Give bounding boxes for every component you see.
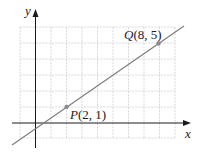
point-p-coords: (2, 1) bbox=[78, 107, 106, 122]
x-axis-label: x bbox=[184, 126, 191, 141]
y-axis-arrow-icon bbox=[33, 9, 39, 17]
point-p-name: P bbox=[69, 107, 78, 122]
point-q-label: Q(8, 5) bbox=[124, 27, 162, 42]
y-axis-label: y bbox=[23, 3, 31, 18]
point-p-label: P(2, 1) bbox=[69, 107, 106, 122]
coordinate-plane: y x P(2, 1) Q(8, 5) bbox=[0, 0, 202, 155]
point-q-coords: (8, 5) bbox=[133, 27, 161, 42]
point-p bbox=[64, 105, 68, 109]
